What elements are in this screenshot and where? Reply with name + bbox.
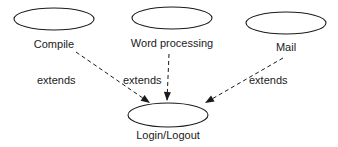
use-case-compile: Compile bbox=[14, 8, 94, 50]
arrowhead-icon bbox=[205, 95, 215, 103]
use-case-label: Mail bbox=[276, 41, 296, 53]
use-case-mail: Mail bbox=[246, 12, 326, 53]
extends-edge-word: extends bbox=[123, 54, 171, 101]
use-case-diagram: extendsextendsextends CompileWord proces… bbox=[0, 0, 338, 147]
use-case-ellipse bbox=[14, 8, 94, 30]
edge-label: extends bbox=[37, 74, 76, 86]
arrowhead-icon bbox=[164, 92, 171, 101]
arrowhead-icon bbox=[141, 95, 150, 103]
use-case-ellipse bbox=[128, 103, 208, 127]
use-case-login: Login/Logout bbox=[128, 103, 208, 141]
use-case-label: Compile bbox=[34, 38, 74, 50]
use-case-label: Word processing bbox=[131, 37, 213, 49]
use-case-label: Login/Logout bbox=[136, 129, 200, 141]
edge-label: extends bbox=[249, 74, 288, 86]
edges: extendsextendsextends bbox=[37, 52, 288, 103]
edge-label: extends bbox=[123, 74, 162, 86]
use-case-ellipse bbox=[246, 12, 326, 34]
extends-edge-mail: extends bbox=[205, 58, 288, 103]
use-case-word: Word processing bbox=[131, 7, 213, 49]
use-case-ellipse bbox=[132, 7, 212, 29]
